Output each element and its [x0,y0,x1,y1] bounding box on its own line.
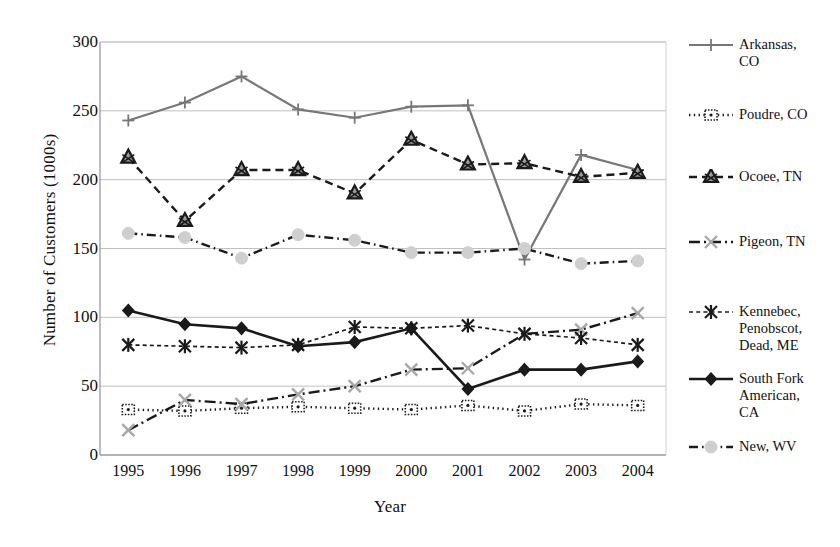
legend-entry-3[interactable]: Ocoee, TN [688,168,840,185]
data-point-marker [349,234,361,246]
data-point-marker [122,227,134,239]
series-line [128,310,637,388]
legend-entry-5[interactable]: Kennebec, Penobscot, Dead, ME [688,303,840,354]
legend-key-icon [688,371,734,387]
data-point-marker [410,408,413,411]
series-line [128,404,637,411]
x-axis-tick-label: 1998 [282,462,314,480]
x-axis-tick-label: 2001 [452,462,484,480]
data-point-marker [297,405,300,408]
legend-key-icon [688,37,734,53]
x-axis-tick-label: 2003 [565,462,597,480]
data-point-marker [405,247,417,259]
legend-label: Arkansas, CO [734,36,797,70]
data-point-marker [123,304,134,316]
x-axis-tick-label: 2004 [622,462,654,480]
legend-entry-4[interactable]: Pigeon, TN [688,233,840,250]
x-axis-tick-label: 2002 [509,462,541,480]
data-point-marker [706,373,717,385]
data-point-marker [580,402,583,405]
data-point-marker [575,258,587,270]
data-point-marker [462,247,474,259]
data-point-marker [179,318,190,330]
data-point-marker [236,252,248,264]
x-axis-tick-label: 1997 [226,462,258,480]
series-line [128,313,637,430]
data-point-marker [240,407,243,410]
data-point-marker [466,404,469,407]
legend-label: Poudre, CO [734,106,807,123]
data-point-marker [353,407,356,410]
data-point-marker [632,255,644,267]
data-point-marker [127,408,130,411]
legend-entry-6[interactable]: South Fork American, CA [688,370,840,421]
legend-entry-1[interactable]: Arkansas, CO [688,36,840,70]
series-6 [123,304,643,394]
data-point-marker [576,364,587,376]
data-point-marker [709,113,712,116]
legend-label: Pigeon, TN [734,233,806,250]
legend-key-icon [688,107,734,123]
x-axis-tick-label: 2000 [395,462,427,480]
legend-label: South Fork American, CA [734,370,804,421]
data-point-marker [523,409,526,412]
data-point-marker [519,243,531,255]
data-point-marker [179,231,191,243]
legend-label: New, WV [734,438,797,455]
x-axis-tick-label: 1996 [169,462,201,480]
x-axis-tick-label: 1999 [339,462,371,480]
legend-label: Ocoee, TN [734,168,802,185]
legend-key-icon [688,234,734,250]
legend: Arkansas, COPoudre, COOcoee, TNPigeon, T… [688,18,840,468]
data-point-marker [636,404,639,407]
data-point-marker [292,229,304,241]
series-line [128,326,637,348]
legend-key-icon [688,439,734,455]
legend-key-icon [688,304,734,320]
legend-label: Kennebec, Penobscot, Dead, ME [734,303,802,354]
data-point-marker [236,322,247,334]
data-point-marker [632,355,643,367]
data-point-marker [349,336,360,348]
data-point-marker [519,364,530,376]
legend-entry-2[interactable]: Poudre, CO [688,106,840,123]
series-line [128,140,637,221]
data-point-marker [705,441,717,453]
legend-entry-7[interactable]: New, WV [688,438,840,455]
x-axis-tick-label: 1995 [112,462,144,480]
series-3 [121,132,644,226]
series-5 [122,319,643,355]
legend-key-icon [688,169,734,185]
line-chart: 050100150200250300 Number of Customers (… [0,0,840,547]
data-point-marker [183,409,186,412]
